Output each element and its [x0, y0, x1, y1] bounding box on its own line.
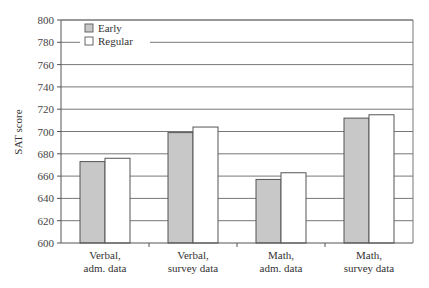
legend-swatch-early	[85, 24, 93, 32]
bar-regular	[281, 173, 306, 243]
x-category-label: Math,	[268, 249, 294, 261]
y-tick-label: 680	[38, 148, 55, 160]
y-tick-label: 660	[38, 170, 55, 182]
x-category-label: Math,	[356, 249, 382, 261]
legend-label-early: Early	[98, 22, 122, 34]
y-tick-label: 760	[38, 59, 55, 71]
bar-early	[344, 118, 369, 243]
x-category-label: survey data	[168, 262, 219, 274]
y-tick-label: 780	[38, 36, 55, 48]
legend-label-regular: Regular	[98, 35, 133, 47]
bar-chart: 600620640660680700720740760780800 Verbal…	[0, 0, 429, 288]
bar-early	[256, 179, 281, 243]
bar-early	[168, 133, 193, 243]
y-tick-labels: 600620640660680700720740760780800	[38, 14, 55, 249]
x-category-label: Verbal,	[89, 249, 121, 261]
y-tick-label: 720	[38, 103, 55, 115]
bar-regular	[193, 127, 218, 243]
legend-swatch-regular	[85, 37, 93, 45]
x-category-labels: Verbal,adm. dataVerbal,survey dataMath,a…	[84, 249, 395, 274]
bars	[80, 115, 394, 243]
y-tick-label: 700	[38, 126, 55, 138]
legend: EarlyRegular	[80, 22, 150, 50]
y-tick-label: 640	[38, 192, 55, 204]
y-tick-label: 620	[38, 215, 55, 227]
bar-regular	[105, 158, 130, 243]
y-axis-label: SAT score	[12, 109, 24, 154]
x-category-label: adm. data	[260, 262, 303, 274]
y-tick-label: 800	[38, 14, 55, 26]
y-tick-label: 600	[38, 237, 55, 249]
x-category-label: Verbal,	[177, 249, 209, 261]
bar-regular	[369, 115, 394, 243]
x-category-label: adm. data	[84, 262, 127, 274]
bar-early	[80, 162, 105, 243]
x-category-label: survey data	[344, 262, 395, 274]
y-tick-label: 740	[38, 81, 55, 93]
